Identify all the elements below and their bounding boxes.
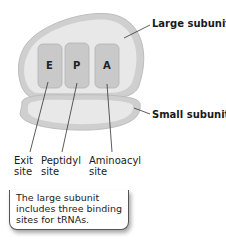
site-letter-e: E <box>46 60 53 72</box>
small-subunit <box>20 95 140 130</box>
site-letter-a: A <box>103 60 111 72</box>
small-subunit-label: Small subunit <box>152 109 226 121</box>
caption-box: The large subunit includes three binding… <box>9 190 129 230</box>
large-subunit-label: Large subunit <box>152 18 226 30</box>
exit-site-label-line2: site <box>14 166 32 178</box>
site-letter-p: P <box>73 60 80 72</box>
aminoacyl-site-label-line2: site <box>89 166 107 178</box>
peptidyl-site-label-line2: site <box>41 166 59 178</box>
